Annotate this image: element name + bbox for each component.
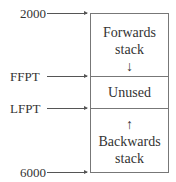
region-forwards-line2: stack — [91, 41, 168, 58]
pointer-label-lfpt: LFPT — [10, 102, 40, 115]
pointer-arrow-lfpt — [47, 108, 87, 109]
pointer-label-2000: 2000 — [20, 7, 46, 20]
divider-lfpt — [91, 108, 168, 109]
divider-ffpt — [91, 76, 168, 77]
memory-box: Forwards stack ↓ Unused ↑ Backwards stac… — [90, 13, 169, 173]
pointer-label-ffpt: FFPT — [10, 70, 40, 83]
pointer-arrow-ffpt — [47, 76, 87, 77]
region-backwards-stack: ↑ Backwards stack — [91, 116, 168, 167]
region-unused: Unused — [91, 84, 168, 101]
region-backwards-line2: stack — [91, 150, 168, 167]
region-backwards-line1: Backwards — [91, 133, 168, 150]
pointer-label-6000: 6000 — [20, 166, 46, 179]
up-arrow-icon: ↑ — [91, 116, 168, 133]
region-forwards-stack: Forwards stack ↓ — [91, 24, 168, 75]
pointer-arrow-6000 — [47, 172, 87, 173]
down-arrow-icon: ↓ — [91, 58, 168, 75]
region-forwards-line1: Forwards — [91, 24, 168, 41]
pointer-arrow-2000 — [47, 13, 87, 14]
region-unused-label: Unused — [91, 84, 168, 101]
